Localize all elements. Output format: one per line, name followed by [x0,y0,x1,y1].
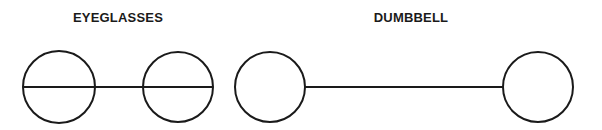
dumbbell-left-weight [235,52,305,122]
diagram-canvas [0,0,602,130]
dumbbell-figure [235,52,573,122]
dumbbell-right-weight [503,52,573,122]
eyeglasses-figure [23,51,213,123]
